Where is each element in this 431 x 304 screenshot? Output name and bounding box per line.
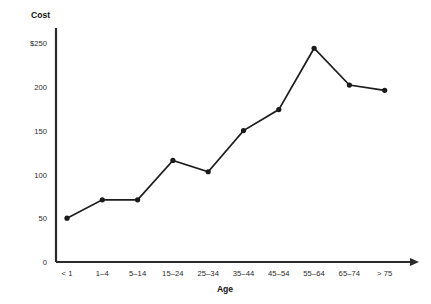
data-point [347,82,352,87]
x-axis-tick-labels: < 11–45–1415–2425–3435–4445–5455–6465–74… [61,269,392,278]
data-point [135,197,140,202]
y-tick-label-50: 50 [39,214,47,223]
y-axis-tick-labels: 0 50 100 150 200 $250 [30,39,47,267]
x-tick-label: 15–24 [162,269,184,278]
data-point [382,88,387,93]
x-tick-label: < 1 [61,269,72,278]
cost-series-line [67,48,385,218]
cost-series-markers [64,46,387,221]
chart-canvas: Cost 0 50 100 150 200 $250 < 11–45–1415–… [0,0,431,304]
data-point [206,169,211,174]
x-tick-label: 55–64 [303,269,325,278]
data-point [312,46,317,51]
x-tick-label: > 75 [377,269,392,278]
x-axis-arrowhead [410,258,419,266]
x-axis-title: Age [217,284,233,294]
y-tick-label-100: 100 [34,171,47,180]
x-tick-label: 25–34 [197,269,219,278]
y-axis-title: Cost [31,10,50,20]
y-tick-label-150: 150 [34,127,47,136]
y-tick-label-0: 0 [43,258,47,267]
x-tick-label: 65–74 [339,269,361,278]
y-tick-label-200: 200 [34,83,47,92]
x-tick-label: 35–44 [233,269,255,278]
y-tick-label-250: $250 [30,39,47,48]
data-point [241,128,246,133]
data-point [170,158,175,163]
x-tick-label: 5–14 [129,269,146,278]
data-point [276,107,281,112]
x-tick-label: 45–54 [268,269,290,278]
x-tick-label: 1–4 [96,269,109,278]
data-point [64,216,69,221]
data-point [100,197,105,202]
line-chart: Cost 0 50 100 150 200 $250 < 11–45–1415–… [0,0,431,304]
